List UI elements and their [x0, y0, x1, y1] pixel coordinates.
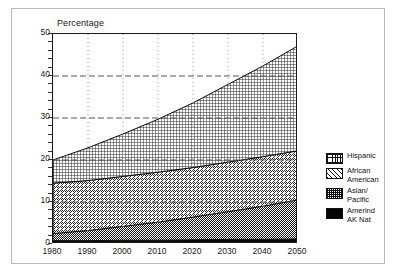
y-axis-tick-labels: 01020304050	[26, 33, 50, 243]
x-axis-tick-label: 1990	[70, 246, 104, 256]
y-axis-minor-tick	[48, 201, 52, 202]
legend: HispanicAfrican AmericanAsian/ PacificAm…	[326, 152, 388, 227]
y-axis-tick-label: 30	[28, 112, 50, 121]
legend-item: Asian/ Pacific	[326, 187, 388, 204]
y-axis-title: Percentage	[57, 18, 104, 28]
x-axis-tick-label: 2040	[245, 246, 279, 256]
y-axis-minor-tick	[48, 184, 52, 185]
stacked-area-series	[53, 34, 297, 243]
plot-area	[52, 33, 297, 243]
y-axis-minor-tick	[48, 235, 52, 236]
x-axis-tick-label: 2010	[140, 246, 174, 256]
legend-item-label: Hispanic	[347, 152, 376, 161]
figure-root: Percentage 01020304050	[0, 0, 398, 277]
y-axis-minor-tick	[48, 50, 52, 51]
legend-item: African American	[326, 167, 388, 184]
y-axis-minor-tick	[48, 193, 52, 194]
y-axis-minor-tick	[48, 100, 52, 101]
diagonal-hatch-swatch	[326, 168, 343, 179]
y-axis-minor-tick	[48, 134, 52, 135]
y-axis-minor-tick	[48, 243, 52, 244]
checkerboard-swatch	[326, 188, 343, 199]
y-axis-minor-tick	[48, 226, 52, 227]
y-axis-minor-tick	[48, 142, 52, 143]
x-axis-tick-label: 2020	[175, 246, 209, 256]
x-axis-tick-label: 2050	[280, 246, 314, 256]
y-axis-tick-label: 20	[28, 154, 50, 163]
y-axis-minor-tick	[48, 151, 52, 152]
grid-crosshatch-swatch	[326, 153, 343, 164]
y-axis-minor-tick	[48, 117, 52, 118]
y-axis-minor-tick	[48, 92, 52, 93]
y-axis-minor-tick	[48, 176, 52, 177]
legend-item-label: African American	[347, 167, 379, 184]
y-axis-tick-label: 50	[28, 28, 50, 37]
x-axis-tick-label: 1980	[35, 246, 69, 256]
y-axis-minor-tick	[48, 218, 52, 219]
legend-item-label: Amerind AK Nat	[347, 207, 375, 224]
y-axis-minor-tick	[48, 67, 52, 68]
y-axis-minor-tick	[48, 109, 52, 110]
y-axis-minor-tick	[48, 159, 52, 160]
solid-black-swatch	[326, 208, 343, 219]
y-axis-minor-tick	[48, 125, 52, 126]
x-axis-tick-label: 2030	[210, 246, 244, 256]
y-axis-minor-tick	[48, 75, 52, 76]
x-axis-tick-labels: 19801990200020102020203020402050	[52, 246, 297, 260]
y-axis-minor-tick	[48, 83, 52, 84]
legend-item: Hispanic	[326, 152, 388, 164]
y-axis-minor-tick	[48, 41, 52, 42]
y-axis-minor-tick	[48, 58, 52, 59]
y-axis-minor-tick	[48, 209, 52, 210]
y-axis-minor-tick	[48, 167, 52, 168]
x-axis-tick-label: 2000	[105, 246, 139, 256]
y-axis-minor-tick	[48, 33, 52, 34]
y-axis-tick-label: 40	[28, 70, 50, 79]
y-axis-tick-label: 10	[28, 196, 50, 205]
legend-item: Amerind AK Nat	[326, 207, 388, 224]
legend-item-label: Asian/ Pacific	[347, 187, 369, 204]
